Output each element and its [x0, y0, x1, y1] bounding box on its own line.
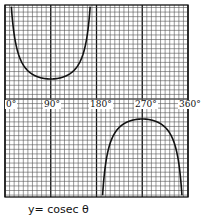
x-tick-label-360: 360° — [178, 100, 202, 109]
x-tick-label-180: 180° — [89, 100, 113, 109]
chart-caption: y= cosec θ — [28, 203, 89, 216]
x-tick-label-90: 90° — [43, 100, 61, 109]
cosec-graph — [0, 0, 205, 221]
x-tick-label-270: 270° — [134, 100, 158, 109]
x-tick-label-0: 0° — [5, 100, 17, 109]
